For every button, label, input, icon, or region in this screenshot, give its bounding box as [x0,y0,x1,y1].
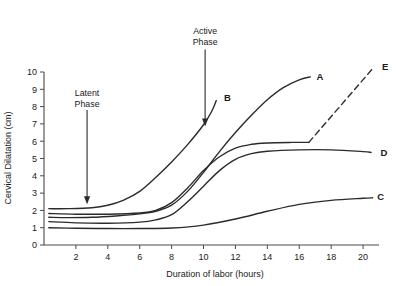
latent-phase-arrow-head [84,196,90,204]
x-axis-title: Duration of labor (hours) [166,269,264,279]
x-tick-label: 12 [230,252,240,262]
curve-b [49,101,217,209]
x-axis-ticks: 2468101214161820 [73,245,368,262]
curve-label-c: C [377,191,384,202]
y-tick-label: 6 [32,137,37,147]
x-tick-label: 8 [169,252,174,262]
curve-label-a: A [317,71,324,82]
y-tick-label: 5 [32,154,37,164]
x-tick-label: 6 [137,252,142,262]
latent-phase-label-line1: Latent [75,88,100,98]
curve-d [49,150,371,224]
x-tick-label: 4 [105,252,110,262]
curve-label-d: D [380,147,387,158]
cervical-dilatation-chart: 012345678910 2468101214161820 ABCDE Late… [0,0,399,286]
x-tick-label: 10 [199,252,209,262]
y-tick-label: 4 [32,171,37,181]
y-tick-label: 8 [32,102,37,112]
x-tick-label: 16 [294,252,304,262]
x-tick-label: 20 [358,252,368,262]
active-phase-label-line1: Active [193,26,217,36]
y-tick-label: 7 [32,119,37,129]
curve-label-b: B [224,92,231,103]
y-tick-label: 3 [32,188,37,198]
y-tick-label: 10 [27,67,37,77]
curve-labels-group: ABCDE [224,61,388,202]
curve-label-e: E [382,61,388,72]
y-tick-label: 9 [32,85,37,95]
curve-c [49,198,373,229]
x-tick-label: 2 [73,252,78,262]
x-tick-label: 18 [326,252,336,262]
curve-e-solid [49,142,309,214]
chart-svg: 012345678910 2468101214161820 ABCDE Late… [0,0,399,286]
x-tick-label: 14 [262,252,272,262]
y-axis-title: Cervical Dilatation (cm) [3,111,13,204]
y-axis-ticks: 012345678910 [27,67,44,250]
latent-phase-label-line2: Phase [75,99,100,109]
y-tick-label: 0 [32,240,37,250]
y-tick-label: 1 [32,223,37,233]
active-phase-label-line2: Phase [193,37,218,47]
y-tick-label: 2 [32,206,37,216]
